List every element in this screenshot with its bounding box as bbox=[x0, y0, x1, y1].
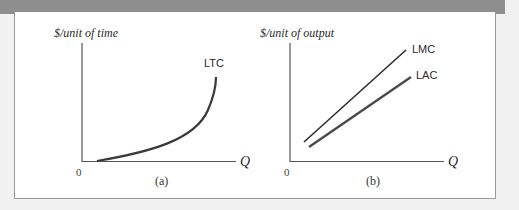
lac-line bbox=[309, 77, 411, 147]
panel-a-origin-label: 0 bbox=[76, 166, 82, 178]
panel-b: $/unit of output Q 0 LMC LAC (b) bbox=[260, 26, 458, 188]
lmc-line bbox=[304, 50, 406, 142]
panel-a-x-axis-label: Q bbox=[240, 154, 250, 169]
panel-b-y-axis-label: $/unit of output bbox=[260, 26, 335, 40]
panel-a-caption: (a) bbox=[155, 174, 168, 188]
figure-svg: $/unit of time Q 0 LTC (a) $/unit of out… bbox=[0, 0, 519, 210]
panel-a: $/unit of time Q 0 LTC (a) bbox=[54, 26, 250, 188]
panel-b-origin-label: 0 bbox=[284, 166, 290, 178]
ltc-curve bbox=[97, 77, 216, 161]
lmc-label: LMC bbox=[412, 43, 435, 55]
panel-b-x-axis-label: Q bbox=[448, 154, 458, 169]
panel-b-caption: (b) bbox=[366, 174, 380, 188]
panel-a-y-axis-label: $/unit of time bbox=[54, 26, 119, 40]
lac-label: LAC bbox=[416, 69, 437, 81]
ltc-label: LTC bbox=[204, 57, 224, 69]
